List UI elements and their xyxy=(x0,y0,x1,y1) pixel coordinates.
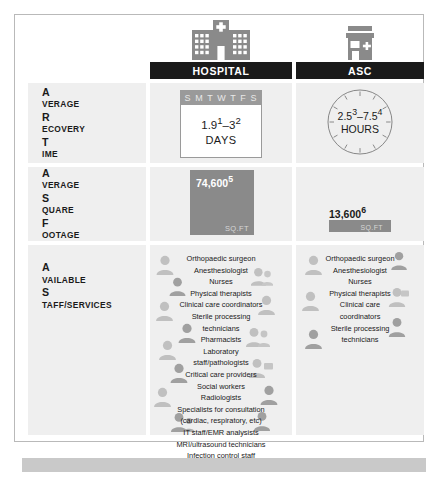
column-header-hospital: HOSPITAL xyxy=(150,62,292,79)
list-item: Sterile processing xyxy=(300,323,420,335)
list-item: Orthopaedic surgeon xyxy=(300,253,420,265)
asc-area-bar: SQ.FT xyxy=(329,220,391,232)
column-header-hospital-label: HOSPITAL xyxy=(192,65,249,77)
value-high: 7.5 xyxy=(363,110,378,122)
calendar-icon: S M T W T F S 1.91–32 DAYS xyxy=(180,90,262,158)
list-item: (cardiac, respiratory, etc) xyxy=(154,415,288,427)
hospital-area-bar: 74,6005 SQ.FT xyxy=(190,170,254,235)
hospital-building-icon xyxy=(192,20,250,60)
list-item: Social workers xyxy=(154,381,288,393)
footnote-ref: 6 xyxy=(361,205,366,215)
clinic-building-icon xyxy=(344,26,376,60)
cell-asc-square-footage: 13,6006 SQ.FT xyxy=(296,167,424,241)
infographic-page: HOSPITAL ASC AVERAGE RECOVERY TIME S M T… xyxy=(0,0,439,481)
asc-recovery-value: 2.53–7.54 xyxy=(326,107,394,122)
row-label-line: AVERAGE xyxy=(42,86,146,111)
column-header-asc: ASC xyxy=(296,62,424,79)
footnote-ref: 2 xyxy=(235,115,240,126)
cell-asc-recovery-time: 2.53–7.54 HOURS xyxy=(296,83,424,163)
cell-asc-staff: Orthopaedic surgeon Anesthesiologist Nur… xyxy=(296,245,424,435)
row-label-line: SQUARE xyxy=(42,192,146,217)
row-label-line: RECOVERY xyxy=(42,111,146,136)
row-label-line: FOOTAGE xyxy=(42,217,146,242)
list-item: Orthopaedic surgeon xyxy=(154,253,288,265)
footnote-ref: 4 xyxy=(378,107,383,117)
calendar-weekday-header: S M T W T F S xyxy=(181,91,261,105)
asc-area-unit: SQ.FT xyxy=(360,224,383,231)
row-label-line: AVAILABLE xyxy=(42,261,146,286)
list-item: staff/pathologists xyxy=(154,357,288,369)
hospital-recovery-unit: DAYS xyxy=(181,134,261,146)
asc-staff-list: Orthopaedic surgeon Anesthesiologist Nur… xyxy=(296,245,424,435)
row-label-line: AVERAGE xyxy=(42,167,146,192)
hospital-area-value: 74,6005 xyxy=(196,174,233,189)
list-item: Nurses xyxy=(300,276,420,288)
list-item: IT staff/EMR analysists xyxy=(154,427,288,439)
list-item: Pharmacists xyxy=(154,334,288,346)
clock-icon-container: 2.53–7.54 HOURS xyxy=(326,88,394,156)
hospital-area-unit: SQ.FT xyxy=(225,224,249,233)
value-low: 1.9 xyxy=(201,119,217,131)
list-item: Critical care providers xyxy=(154,369,288,381)
asc-recovery-text: 2.53–7.54 HOURS xyxy=(326,107,394,135)
list-item: Anesthesiologist xyxy=(300,265,420,277)
footnote-ref: 5 xyxy=(228,174,233,184)
row-label-square-footage: AVERAGE SQUARE FOOTAGE xyxy=(28,167,146,241)
list-item: MRI/ultrasound technicians xyxy=(154,439,288,451)
list-item: Laboratory xyxy=(154,346,288,358)
asc-recovery-unit: HOURS xyxy=(326,123,394,135)
hospital-icon-container xyxy=(150,20,292,60)
list-item: Sterile processing xyxy=(154,311,288,323)
cell-hospital-recovery-time: S M T W T F S 1.91–32 DAYS xyxy=(150,83,292,163)
value-low: 2.5 xyxy=(338,110,353,122)
list-item: Clinical care xyxy=(300,299,420,311)
list-item: Anesthesiologist xyxy=(154,265,288,277)
list-item: Infection control staff xyxy=(154,450,288,462)
asc-area-value: 13,6006 xyxy=(329,205,366,220)
row-label-line: TIME xyxy=(42,136,146,161)
list-item: coordinators xyxy=(300,311,420,323)
list-item: Physical therapists xyxy=(300,288,420,300)
list-item: technicians xyxy=(300,334,420,346)
row-label-available-staff: AVAILABLE STAFF/SERVICES xyxy=(28,245,146,435)
asc-icon-container xyxy=(296,20,424,60)
list-item: Nurses xyxy=(154,276,288,288)
list-item: Clinical care coordinators xyxy=(154,299,288,311)
row-label-line: STAFF/SERVICES xyxy=(42,286,146,311)
hospital-staff-list: Orthopaedic surgeon Anesthesiologist Nur… xyxy=(150,245,292,435)
list-item: technicians xyxy=(154,323,288,335)
cell-hospital-square-footage: 74,6005 SQ.FT xyxy=(150,167,292,241)
row-label-recovery-time: AVERAGE RECOVERY TIME xyxy=(28,83,146,163)
column-header-asc-label: ASC xyxy=(348,65,372,77)
cell-hospital-staff: Orthopaedic surgeon Anesthesiologist Nur… xyxy=(150,245,292,435)
calendar-body: 1.91–32 DAYS xyxy=(181,105,261,157)
list-item: Physical therapists xyxy=(154,288,288,300)
list-item: Specialists for consultation xyxy=(154,404,288,416)
hospital-recovery-value: 1.91–32 xyxy=(181,115,261,131)
list-item: Radiologists xyxy=(154,392,288,404)
